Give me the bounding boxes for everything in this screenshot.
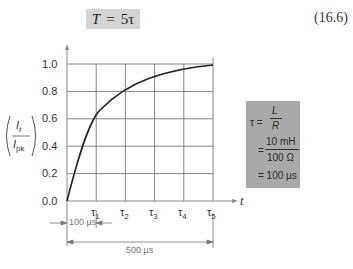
x-axis-label: t [240, 193, 244, 209]
y-tick-0.2: 0.2 [42, 167, 57, 179]
time-constant-box: τ = L R = 10 mH 100 Ω = 100 µs [246, 101, 300, 188]
y-tick-0.8: 0.8 [42, 85, 57, 97]
x-tick-tau5: τ5 [207, 206, 216, 221]
dim-label-100us: 100 µs [69, 217, 96, 227]
x-tick-tau3: τ3 [149, 206, 158, 221]
x-tick-tau2: τ2 [120, 206, 129, 221]
tau-equals: τ = [250, 117, 263, 128]
value-numerator: 10 mH [266, 136, 295, 147]
y-tick-0.6: 0.6 [42, 112, 57, 124]
charging-curve [67, 65, 213, 201]
y-label-numerator: It [16, 119, 21, 134]
y-axis-label: It Ipk [2, 114, 38, 158]
fraction-bar [270, 118, 282, 119]
y-axis-arrow-icon [65, 44, 69, 50]
x-axis-arrow-icon [232, 199, 238, 203]
resistance-symbol: R [272, 120, 279, 131]
value-denominator: 100 Ω [267, 152, 294, 163]
y-tick-1.0: 1.0 [42, 58, 57, 70]
x-tick-tau4: τ4 [178, 206, 187, 221]
inductance-symbol: L [272, 105, 278, 116]
result: = 100 µs [258, 170, 297, 181]
y-tick-0.0: 0.0 [42, 195, 57, 207]
dimension-lines [50, 210, 213, 248]
equals-2: = [258, 145, 264, 156]
dim-label-500us: 500 µs [126, 245, 153, 255]
y-label-denominator: Ipk [13, 138, 25, 153]
y-tick-0.4: 0.4 [42, 140, 57, 152]
chart [0, 0, 353, 269]
fraction-bar-2 [265, 149, 299, 150]
